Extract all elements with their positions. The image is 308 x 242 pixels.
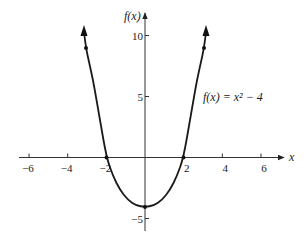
function-label: f(x) = x² − 4 [203,90,263,104]
data-point [202,46,206,50]
x-tick-label: 4 [223,162,229,174]
data-point [182,156,186,160]
curve-arrow-left-icon [81,25,88,36]
data-point [84,46,88,50]
data-point [143,205,147,209]
x-axis-label: x [288,150,295,164]
curve-arrow-right-icon [203,25,210,36]
y-tick-label: −5 [131,213,143,225]
function-graph: −6−4−2246 x 105−5 f(x) f(x) = x² − 4 [0,0,308,242]
x-tick-label: 2 [184,162,190,174]
x-tick-label: −4 [61,162,73,174]
y-tick-label: 5 [138,91,144,103]
x-tick-label: 6 [261,162,267,174]
data-point [105,156,109,160]
x-tick-label: −6 [22,162,34,174]
y-tick-label: 10 [132,30,144,42]
y-axis: 105−5 f(x) [124,9,149,231]
x-axis: −6−4−2246 x [19,150,295,174]
y-axis-label: f(x) [124,9,141,23]
